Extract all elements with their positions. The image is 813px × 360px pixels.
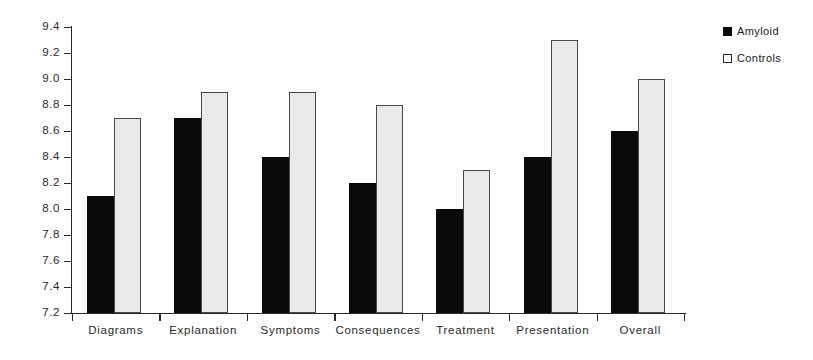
y-axis-tick	[64, 105, 72, 106]
legend-swatch-amyloid-icon	[723, 27, 732, 36]
bar-controls-symptoms	[289, 92, 316, 313]
y-axis-tick	[64, 183, 72, 184]
bar-chart: 9.49.29.08.88.68.48.28.07.87.67.47.2 Dia…	[0, 0, 813, 360]
bar-controls-explanation	[201, 92, 228, 313]
y-axis-tick-label: 7.4	[20, 281, 60, 292]
y-axis-tick	[64, 157, 72, 158]
x-axis-label-diagrams: Diagrams	[72, 324, 159, 336]
y-axis-tick	[64, 53, 72, 54]
y-axis-tick	[64, 27, 72, 28]
y-axis-tick-label: 8.4	[20, 151, 60, 162]
x-axis-label-explanation: Explanation	[159, 324, 246, 336]
bar-controls-overall	[638, 79, 665, 313]
y-axis-tick-label: 9.0	[20, 73, 60, 84]
chart-legend: Amyloid Controls	[723, 22, 809, 76]
y-axis-tick-label-wrap: 7.6	[18, 255, 60, 266]
y-axis-tick-label: 8.2	[20, 177, 60, 188]
plot-area	[72, 27, 684, 313]
bar-amyloid-presentation	[524, 157, 551, 313]
y-axis-tick-label: 8.8	[20, 99, 60, 110]
x-axis-label-presentation: Presentation	[509, 324, 596, 336]
legend-item-amyloid: Amyloid	[723, 22, 809, 40]
x-axis-tick	[334, 313, 335, 321]
x-axis-tick-origin	[72, 313, 73, 321]
x-axis-label-overall: Overall	[597, 324, 684, 336]
legend-swatch-controls-icon	[723, 54, 732, 63]
x-axis-tick	[247, 313, 248, 321]
y-axis-tick-label-wrap: 9.2	[18, 47, 60, 58]
legend-item-controls: Controls	[723, 49, 809, 67]
bar-controls-diagrams	[114, 118, 141, 313]
bar-controls-consequences	[376, 105, 403, 313]
y-axis-tick-label: 8.6	[20, 125, 60, 136]
y-axis-tick-label-wrap: 8.0	[18, 203, 60, 214]
y-axis-tick-label-wrap: 9.0	[18, 73, 60, 84]
x-axis-tick	[684, 313, 685, 321]
y-axis-tick-label-wrap: 7.2	[18, 307, 60, 318]
y-axis-tick-label: 9.2	[20, 47, 60, 58]
y-axis-tick-label: 7.6	[20, 255, 60, 266]
y-axis-tick	[64, 79, 72, 80]
x-axis-label-treatment: Treatment	[422, 324, 509, 336]
x-axis-tick	[159, 313, 160, 321]
y-axis-tick-label-wrap: 8.2	[18, 177, 60, 188]
y-axis-tick-label: 8.0	[20, 203, 60, 214]
y-axis-tick-label-wrap: 8.6	[18, 125, 60, 136]
y-axis-tick	[64, 261, 72, 262]
x-axis-tick	[422, 313, 423, 321]
bar-amyloid-symptoms	[262, 157, 289, 313]
bar-controls-presentation	[551, 40, 578, 313]
y-axis-tick-label: 9.4	[20, 21, 60, 32]
y-axis-tick-label: 7.8	[20, 229, 60, 240]
legend-label-controls: Controls	[737, 52, 781, 64]
bar-amyloid-overall	[611, 131, 638, 313]
y-axis-tick	[64, 287, 72, 288]
x-axis-tick	[509, 313, 510, 321]
bar-amyloid-explanation	[174, 118, 201, 313]
x-axis-tick	[597, 313, 598, 321]
y-axis-tick	[64, 131, 72, 132]
y-axis-tick-label-wrap: 9.4	[18, 21, 60, 32]
legend-label-amyloid: Amyloid	[737, 25, 779, 37]
y-axis-tick-label-wrap: 7.8	[18, 229, 60, 240]
y-axis-tick	[64, 209, 72, 210]
bar-amyloid-treatment	[436, 209, 463, 313]
bar-amyloid-diagrams	[87, 196, 114, 313]
bar-amyloid-consequences	[349, 183, 376, 313]
y-axis-tick	[64, 313, 72, 314]
y-axis-tick-label: 7.2	[20, 307, 60, 318]
y-axis-tick	[64, 235, 72, 236]
x-axis-label-consequences: Consequences	[334, 324, 421, 336]
bar-controls-treatment	[463, 170, 490, 313]
x-axis-label-symptoms: Symptoms	[247, 324, 334, 336]
y-axis-tick-label-wrap: 8.4	[18, 151, 60, 162]
y-axis-tick-label-wrap: 8.8	[18, 99, 60, 110]
y-axis-tick-label-wrap: 7.4	[18, 281, 60, 292]
